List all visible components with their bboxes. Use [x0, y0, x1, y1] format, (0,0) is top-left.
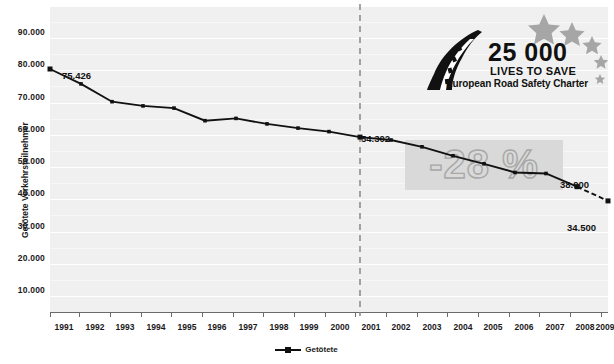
- legend-marker-icon: [275, 345, 301, 354]
- data-label-2001: 54.302: [361, 133, 390, 144]
- data-point: [172, 106, 176, 110]
- data-label-2009: 34.500: [567, 222, 596, 233]
- data-point: [513, 171, 517, 175]
- data-point: [234, 117, 238, 121]
- data-point: [327, 130, 331, 134]
- data-point: [544, 172, 548, 176]
- data-point: [203, 119, 207, 123]
- data-point: [79, 82, 83, 86]
- data-point: [48, 67, 53, 72]
- european-road-safety-charter-logo: 25 000 LIVES TO SAVE European Road Safet…: [424, 12, 610, 90]
- data-point: [296, 126, 300, 130]
- data-point: [606, 198, 611, 203]
- data-point: [451, 154, 455, 158]
- data-point: [482, 162, 486, 166]
- data-point: [420, 145, 424, 149]
- logo-subtitle: LIVES TO SAVE: [490, 65, 576, 77]
- data-point: [265, 122, 269, 126]
- data-label-1991: 75.426: [62, 70, 91, 81]
- logo-number: 25 000: [488, 40, 567, 65]
- data-point: [110, 100, 114, 104]
- data-point: [141, 104, 145, 108]
- data-label-2008: 38.900: [560, 179, 589, 190]
- logo-charter-name: European Road Safety Charter: [424, 78, 610, 89]
- legend-label: Getötete: [305, 345, 337, 354]
- chart-legend: Getötete: [0, 345, 613, 354]
